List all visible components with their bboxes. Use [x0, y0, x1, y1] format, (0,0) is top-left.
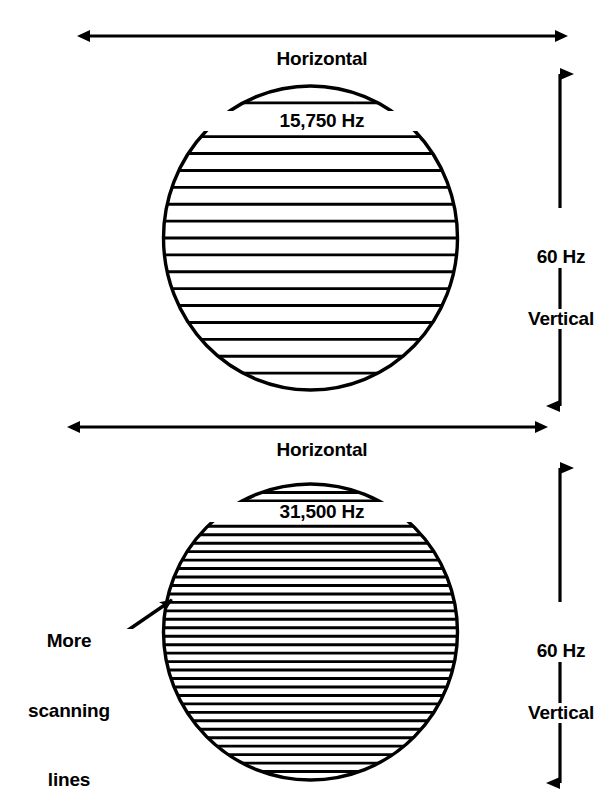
diagram-canvas: Horizontal 15,750 Hz 60 Hz Vertical Hori…	[0, 0, 613, 803]
bottom-vertical-label: 60 Hz Vertical	[496, 600, 613, 764]
bottom-vertical-label-line2: Vertical	[496, 703, 613, 724]
bottom-vertical-label-line1: 60 Hz	[496, 641, 613, 662]
top-horizontal-label: Horizontal 15,750 Hz	[202, 8, 442, 172]
top-vertical-label: 60 Hz Vertical	[496, 206, 613, 370]
top-horizontal-label-line1: Horizontal	[202, 49, 442, 70]
callout-line3: lines	[4, 768, 134, 791]
middle-horizontal-label-line1: Horizontal	[202, 440, 442, 461]
top-horizontal-label-line2: 15,750 Hz	[202, 111, 442, 132]
middle-horizontal-label: Horizontal 31,500 Hz	[202, 399, 442, 563]
callout-line2: scanning	[4, 699, 134, 722]
top-vertical-label-line1: 60 Hz	[496, 247, 613, 268]
callout-line1: More	[4, 629, 134, 652]
middle-horizontal-label-line2: 31,500 Hz	[202, 502, 442, 523]
more-scanning-lines-callout: More scanning lines	[4, 583, 134, 803]
top-vertical-label-line2: Vertical	[496, 309, 613, 330]
